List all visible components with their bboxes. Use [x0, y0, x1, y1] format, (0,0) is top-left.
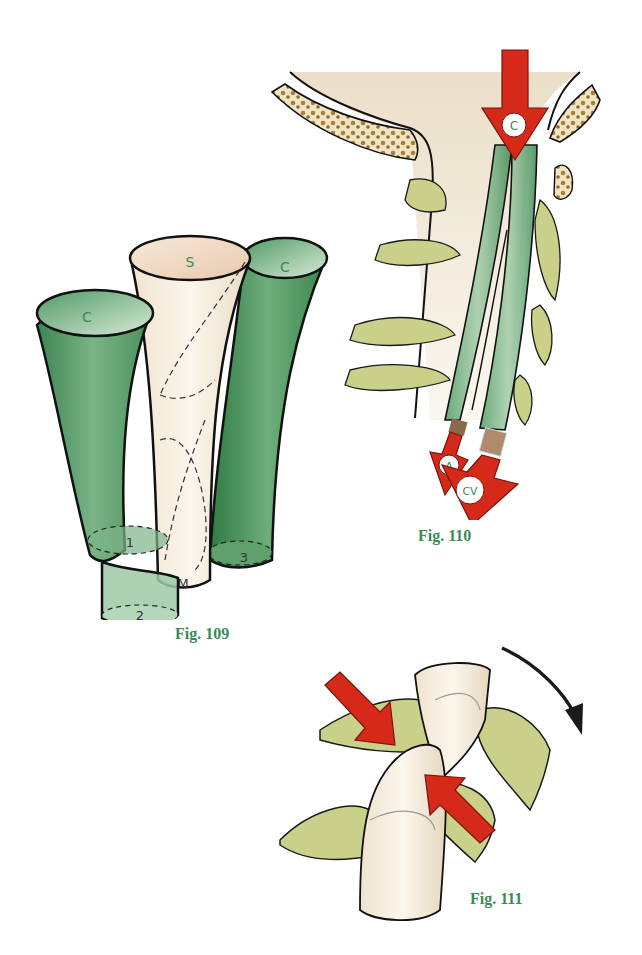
- label-s: S: [186, 254, 195, 270]
- figure-111-illustration: [270, 640, 642, 940]
- bone-fragment: [554, 165, 573, 199]
- label-c-arrow: C: [510, 119, 518, 133]
- caption-fig-109: Fig. 109: [175, 625, 229, 643]
- label-cv-arrow: CV: [462, 485, 478, 498]
- caption-fig-110: Fig. 110: [418, 527, 471, 545]
- rotation-arrow-icon: [502, 648, 575, 715]
- label-3: 3: [240, 550, 248, 565]
- label-2: 2: [136, 608, 144, 620]
- figure-110-illustration: C A CV: [250, 0, 642, 520]
- label-c-left: C: [82, 309, 92, 325]
- label-1: 1: [126, 535, 134, 550]
- caption-fig-111: Fig. 111: [470, 890, 522, 908]
- spinal-cord-lower: [360, 745, 446, 920]
- occipital-bone-right: [550, 85, 600, 142]
